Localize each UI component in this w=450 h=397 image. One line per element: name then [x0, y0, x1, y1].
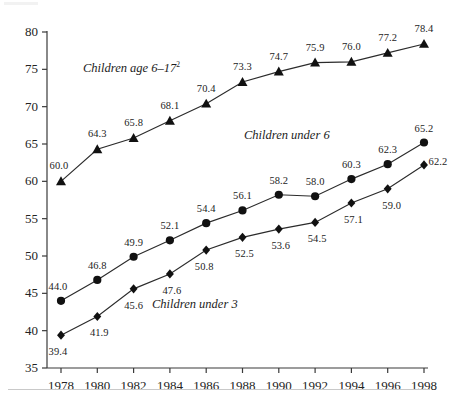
series-label-children-under-6: Children under 6: [244, 128, 330, 143]
data-value-label: 57.1: [341, 215, 365, 226]
data-value-label: 74.7: [267, 52, 291, 63]
data-value-label: 65.2: [412, 124, 436, 135]
data-value-label: 54.5: [305, 234, 329, 245]
y-tick-label: 55: [12, 212, 38, 225]
data-value-label: 58.2: [267, 176, 291, 187]
data-value-label: 78.4: [412, 24, 436, 35]
data-value-label: 49.9: [122, 238, 146, 249]
data-value-label: 62.2: [426, 157, 450, 168]
data-value-label: 46.8: [85, 261, 109, 272]
data-value-label: 73.3: [231, 62, 255, 73]
data-value-label: 60.0: [47, 161, 71, 172]
data-value-label: 58.0: [303, 177, 327, 188]
data-value-label: 59.0: [380, 201, 404, 212]
y-tick-label: 70: [12, 100, 38, 113]
data-value-label: 77.2: [376, 33, 400, 44]
data-value-label: 53.6: [269, 241, 293, 252]
data-value-label: 68.1: [158, 101, 182, 112]
data-value-label: 44.0: [46, 282, 70, 293]
data-value-label: 56.1: [231, 191, 255, 202]
y-tick-label: 80: [12, 25, 38, 38]
data-value-label: 39.4: [46, 347, 70, 358]
y-tick-label: 65: [12, 137, 38, 150]
series-label-children-under-3: Children under 3: [152, 297, 238, 312]
data-value-label: 76.0: [339, 42, 363, 53]
data-value-label: 64.3: [85, 129, 109, 140]
data-value-label: 62.3: [376, 145, 400, 156]
data-value-label: 52.5: [233, 249, 257, 260]
series-label-children-age-6-17: Children age 6–172: [83, 60, 180, 76]
bottom-rule: [8, 389, 430, 390]
data-value-label: 60.3: [339, 160, 363, 171]
y-tick-label: 60: [12, 174, 38, 187]
y-tick-label: 40: [12, 324, 38, 337]
data-value-label: 50.8: [192, 262, 216, 273]
data-value-label: 41.9: [87, 328, 111, 339]
data-value-label: 52.1: [158, 221, 182, 232]
y-tick-label: 35: [12, 361, 38, 374]
y-tick-label: 50: [12, 249, 38, 262]
data-value-label: 45.6: [122, 301, 146, 312]
data-value-label: 70.4: [194, 84, 218, 95]
data-value-label: 47.6: [160, 286, 184, 297]
data-value-label: 54.4: [194, 204, 218, 215]
data-value-label: 75.9: [303, 43, 327, 54]
y-tick-label: 75: [12, 62, 38, 75]
x-tick-label: 1998: [401, 379, 447, 392]
y-tick-label: 45: [12, 286, 38, 299]
data-value-label: 65.8: [122, 118, 146, 129]
